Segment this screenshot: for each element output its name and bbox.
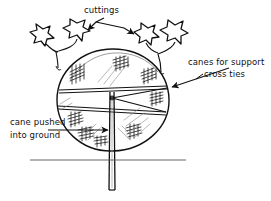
cutting-4	[158, 20, 188, 74]
cutting-2	[56, 19, 90, 70]
propagation-diagram	[0, 0, 271, 201]
label-cross-ties: cross ties	[204, 69, 245, 79]
cuttings-group	[30, 19, 188, 74]
cutting-1-stem	[46, 44, 58, 52]
main-cane-left-edge	[109, 92, 110, 190]
cuttings-leader-group	[88, 18, 134, 34]
main-cane-group	[109, 92, 115, 190]
soil-sweep-strokes	[60, 66, 150, 140]
hatch-cluster-lower-left	[68, 112, 83, 127]
main-cane-right-edge	[114, 92, 115, 190]
label-cuttings: cuttings	[84, 5, 119, 15]
hatch-cluster-right-mid	[150, 92, 163, 106]
hatch-cluster-bottom-mid	[94, 136, 108, 147]
cutting-3-stem	[146, 43, 158, 53]
cutting-4-leaf	[160, 20, 188, 44]
illustration-page: cuttings canes for support cross ties ca…	[0, 0, 271, 201]
cuttings-leader-right	[96, 22, 134, 34]
cutting-3-leaf	[134, 23, 159, 45]
label-canes-for-support: canes for support	[188, 57, 264, 67]
cutting-3	[134, 23, 159, 53]
cutting-2-leaf	[63, 19, 90, 41]
hatch-cluster-upper-mid	[113, 56, 129, 71]
cuttings-leader-left	[88, 18, 104, 30]
label-cane-pushed-line2: into ground	[10, 130, 60, 140]
cutting-4-stem	[158, 42, 175, 72]
hatch-cluster-upper-right	[141, 68, 156, 84]
cutting-1-leaf	[30, 24, 54, 46]
hatch-cluster-upper-left	[70, 64, 84, 84]
compost-hatching-group	[60, 56, 163, 147]
hatch-cluster-lower-right	[126, 124, 142, 139]
label-cane-pushed-line1: cane pushed	[10, 117, 66, 127]
cutting-1	[30, 24, 58, 52]
